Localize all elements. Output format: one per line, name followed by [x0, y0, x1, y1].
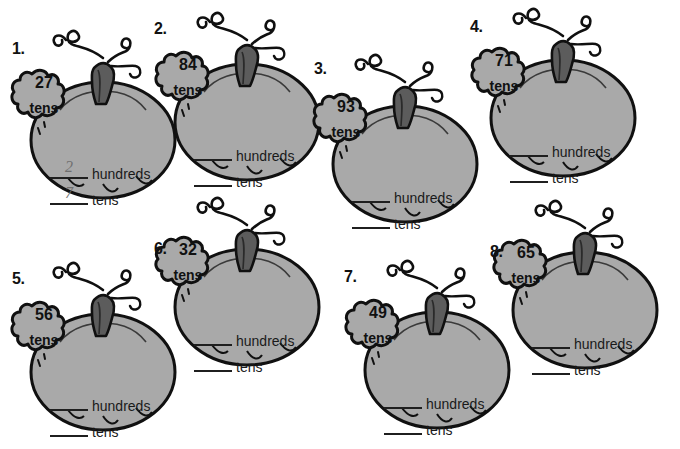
blank-hundreds-4[interactable]: [510, 138, 548, 157]
answer-tens-5[interactable]: tens: [50, 418, 118, 440]
item-number-4: 4.: [470, 18, 482, 36]
label-tens-3: tens: [394, 216, 420, 232]
leaf-unit-3: tens: [318, 124, 374, 140]
blank-tens-8[interactable]: [532, 356, 570, 375]
leaf-unit-5: tens: [16, 332, 72, 348]
answer-tens-8[interactable]: tens: [532, 356, 600, 378]
answer-tens-2[interactable]: tens: [194, 168, 262, 190]
label-hundreds-5: hundreds: [92, 398, 150, 414]
item-number-2: 2.: [154, 20, 166, 38]
item-number-3: 3.: [314, 60, 326, 78]
blank-tens-6[interactable]: [194, 353, 232, 372]
leaf-unit-6: tens: [160, 267, 216, 283]
leaf-value-3: 93: [320, 98, 372, 116]
label-hundreds-4: hundreds: [552, 144, 610, 160]
label-tens-8: tens: [574, 362, 600, 378]
label-hundreds-3: hundreds: [394, 190, 452, 206]
leaf-value-7: 49: [352, 304, 404, 322]
answer-hundreds-2[interactable]: hundreds: [194, 142, 294, 164]
answer-hundreds-7[interactable]: hundreds: [384, 390, 484, 412]
answer-tens-1[interactable]: 7tens: [50, 186, 118, 208]
answer-value-hundreds-1: 2: [50, 158, 88, 176]
leaf-unit-7: tens: [350, 330, 406, 346]
blank-hundreds-6[interactable]: [194, 327, 232, 346]
label-tens-6: tens: [236, 359, 262, 375]
leaf-unit-4: tens: [476, 78, 532, 94]
answer-tens-6[interactable]: tens: [194, 353, 262, 375]
pumpkin-item-6: 6. 32 tens hundreds: [152, 185, 342, 375]
answer-tens-7[interactable]: tens: [384, 416, 452, 438]
answer-hundreds-5[interactable]: hundreds: [50, 392, 150, 414]
leaf-unit-2: tens: [160, 82, 216, 98]
answer-tens-3[interactable]: tens: [352, 210, 420, 232]
worksheet-sheet: 1. 27 tens 2hundreds: [0, 0, 680, 449]
label-tens-7: tens: [426, 422, 452, 438]
answer-hundreds-1[interactable]: 2hundreds: [50, 160, 150, 182]
label-hundreds-1: hundreds: [92, 166, 150, 182]
answer-tens-4[interactable]: tens: [510, 164, 578, 186]
blank-hundreds-3[interactable]: [352, 184, 390, 203]
blank-tens-1[interactable]: 7: [50, 186, 88, 205]
blank-hundreds-7[interactable]: [384, 390, 422, 409]
blank-tens-5[interactable]: [50, 418, 88, 437]
answer-hundreds-3[interactable]: hundreds: [352, 184, 452, 206]
leaf-value-4: 71: [478, 52, 530, 70]
leaf-value-5: 56: [18, 306, 70, 324]
blank-tens-2[interactable]: [194, 168, 232, 187]
blank-tens-3[interactable]: [352, 210, 390, 229]
item-number-1: 1.: [12, 40, 24, 58]
leaf-value-1: 27: [18, 74, 70, 92]
blank-tens-7[interactable]: [384, 416, 422, 435]
label-hundreds-6: hundreds: [236, 333, 294, 349]
label-tens-4: tens: [552, 170, 578, 186]
item-number-5: 5.: [12, 270, 24, 288]
leaf-unit-1: tens: [16, 100, 72, 116]
label-tens-2: tens: [236, 174, 262, 190]
answer-hundreds-4[interactable]: hundreds: [510, 138, 610, 160]
blank-tens-4[interactable]: [510, 164, 548, 183]
pumpkin-item-8: 8. 65 tens hundreds: [490, 188, 680, 378]
label-tens-1: tens: [92, 192, 118, 208]
item-number-8: 8.: [490, 243, 502, 261]
leaf-value-2: 84: [162, 56, 214, 74]
label-tens-5: tens: [92, 424, 118, 440]
pumpkin-item-4: 4. 71 tens hundreds: [468, 0, 658, 186]
label-hundreds-8: hundreds: [574, 336, 632, 352]
item-number-6: 6.: [154, 240, 166, 258]
label-hundreds-2: hundreds: [236, 148, 294, 164]
blank-hundreds-2[interactable]: [194, 142, 232, 161]
blank-hundreds-1[interactable]: 2: [50, 160, 88, 179]
label-hundreds-7: hundreds: [426, 396, 484, 412]
blank-hundreds-5[interactable]: [50, 392, 88, 411]
item-number-7: 7.: [344, 268, 356, 286]
answer-value-tens-1: 7: [50, 184, 88, 202]
leaf-value-8: 65: [500, 244, 552, 262]
leaf-unit-8: tens: [498, 270, 554, 286]
leaf-value-6: 32: [162, 241, 214, 259]
answer-hundreds-6[interactable]: hundreds: [194, 327, 294, 349]
blank-hundreds-8[interactable]: [532, 330, 570, 349]
answer-hundreds-8[interactable]: hundreds: [532, 330, 632, 352]
